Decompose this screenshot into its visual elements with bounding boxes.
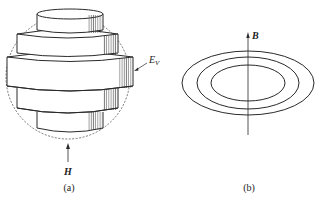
caption-a: (a) [63,183,74,193]
b-field-label: B [252,31,259,41]
ev-label: EV [149,55,159,67]
h-arrowhead [66,143,70,149]
cylinder-top [37,9,103,33]
b-arrowhead [246,32,249,38]
panel-b-drawing [182,32,314,135]
cylinder-bottom [37,112,103,132]
cylinder-center-band [7,52,133,91]
caption-b: (b) [243,183,255,193]
h-field-label: H [64,167,72,177]
figure-drawing [0,0,318,200]
cylinder-lower-middle [17,88,118,113]
ev-arrowhead [134,68,139,72]
cylinder-upper-middle [17,30,118,57]
figure: EV H (a) B (b) [0,0,318,200]
panel-a-drawing [6,9,147,162]
ev-label-sub: V [155,59,159,67]
